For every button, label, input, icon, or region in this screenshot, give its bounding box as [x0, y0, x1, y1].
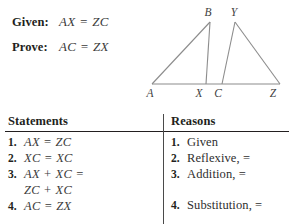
vertex-label-C: C	[214, 87, 222, 99]
row-spacer	[171, 183, 291, 198]
geometry-diagram: A B X C Y Z	[140, 0, 294, 110]
segment-CY	[222, 22, 235, 84]
statement-text: XC = XC	[24, 151, 73, 166]
segment-YZ	[235, 22, 280, 84]
reason-row: 1. Given	[171, 135, 291, 150]
vertex-label-Y: Y	[231, 6, 239, 18]
column-divider	[163, 114, 164, 224]
statements-header: Statements	[8, 114, 158, 129]
reason-text: Substitution, =	[187, 198, 262, 213]
segment-BX	[206, 22, 210, 84]
reasons-column: Reasons 1. Given 2. Reflexive, = 3. Addi…	[171, 114, 291, 214]
prove-row: Prove: AC = ZX	[12, 39, 142, 55]
reason-number: 3.	[171, 168, 187, 180]
two-column-proof-table: Statements 1. AX = ZC 2. XC = XC 3. AX +…	[0, 114, 294, 224]
statements-column: Statements 1. AX = ZC 2. XC = XC 3. AX +…	[8, 114, 158, 215]
statement-row: 3. AX + XC =	[8, 167, 158, 182]
reason-text: Reflexive, =	[187, 151, 250, 166]
given-label: Given:	[12, 15, 59, 30]
reason-number: 4.	[171, 199, 187, 211]
segment-AB	[152, 22, 210, 84]
statement-number: 4.	[8, 200, 24, 212]
given-row: Given: AX = ZC	[12, 14, 142, 30]
vertex-label-Z: Z	[270, 87, 277, 99]
statement-row: 4. AC = ZX	[8, 199, 158, 214]
given-equation: AX = ZC	[59, 14, 109, 30]
statement-row: 1. AX = ZC	[8, 135, 158, 150]
statement-number: 2.	[8, 152, 24, 164]
vertex-label-A: A	[145, 87, 154, 99]
statement-number: 1.	[8, 136, 24, 148]
vertex-label-X: X	[194, 87, 203, 99]
reason-row: 3. Addition, =	[171, 167, 291, 182]
statement-text: AX + XC =	[24, 167, 84, 182]
reason-row: 2. Reflexive, =	[171, 151, 291, 166]
prove-equation: AC = ZX	[59, 39, 109, 55]
reason-text: Given	[187, 135, 218, 150]
given-prove-block: Given: AX = ZC Prove: AC = ZX	[12, 14, 142, 64]
vertex-label-B: B	[204, 6, 211, 18]
reason-number: 1.	[171, 136, 187, 148]
reason-number: 2.	[171, 152, 187, 164]
reasons-header: Reasons	[171, 114, 291, 129]
statement-text: AX = ZC	[24, 135, 71, 150]
diagram-svg: A B X C Y Z	[140, 0, 294, 110]
statement-text: AC = ZX	[24, 199, 71, 214]
statement-row: 2. XC = XC	[8, 151, 158, 166]
statement-number: 3.	[8, 168, 24, 180]
statement-text-continued: ZC + XC	[24, 183, 158, 198]
reason-row: 4. Substitution, =	[171, 198, 291, 213]
prove-label: Prove:	[12, 40, 59, 55]
reason-text: Addition, =	[187, 167, 246, 182]
